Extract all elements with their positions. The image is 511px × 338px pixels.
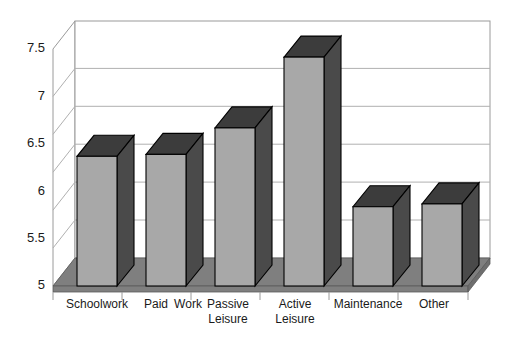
bar-other[interactable] <box>422 183 479 286</box>
cat-label-other: Other <box>419 297 449 311</box>
bar-paid-work[interactable] <box>146 133 203 286</box>
bar-schoolwork-front <box>77 156 117 286</box>
bar-schoolwork-side <box>117 135 134 286</box>
y-tick-label-7: 7 <box>38 88 45 103</box>
cat-label-paid-work-line1: Paid <box>144 297 168 311</box>
bar-passive-leisure-front <box>215 128 255 286</box>
bar-paid-work-front <box>146 154 186 286</box>
cat-label-maintenance: Maintenance <box>334 297 403 311</box>
bar-maintenance[interactable] <box>353 186 410 286</box>
bar-passive-leisure[interactable] <box>215 107 272 286</box>
y-tick-label-6.5: 6.5 <box>27 135 45 150</box>
floor-front-edge <box>53 286 468 292</box>
x-axis-category-labels: Schoolwork Paid Work Passive Leisure Act… <box>66 297 449 326</box>
bar-active-leisure[interactable] <box>284 36 341 286</box>
left-wall <box>53 21 75 286</box>
cat-label-schoolwork: Schoolwork <box>66 297 129 311</box>
bar-paid-work-side <box>186 133 203 286</box>
bar-maintenance-front <box>353 207 393 286</box>
y-tick-label-5.5: 5.5 <box>27 230 45 245</box>
bar-active-leisure-front <box>284 57 324 286</box>
bar-passive-leisure-side <box>255 107 272 286</box>
bar-other-front <box>422 204 462 286</box>
y-axis-tick-labels: 7.5 7 6.5 6 5.5 5 <box>27 40 45 292</box>
cat-label-active-leisure-line1: Active <box>279 297 312 311</box>
bar-active-leisure-side <box>324 36 341 286</box>
bar-schoolwork[interactable] <box>77 135 134 286</box>
y-tick-label-6: 6 <box>38 183 45 198</box>
cat-label-paid-work-line2: Work <box>174 297 203 311</box>
y-tick-label-7.5: 7.5 <box>27 40 45 55</box>
y-tick-label-5: 5 <box>38 277 45 292</box>
cat-label-passive-leisure-line2: Leisure <box>208 312 248 326</box>
cat-label-passive-leisure-line1: Passive <box>207 297 249 311</box>
bar-chart-figure: 7.5 7 6.5 6 5.5 5 <box>0 0 511 338</box>
chart-canvas: 7.5 7 6.5 6 5.5 5 <box>0 0 511 338</box>
cat-label-active-leisure-line2: Leisure <box>275 312 315 326</box>
